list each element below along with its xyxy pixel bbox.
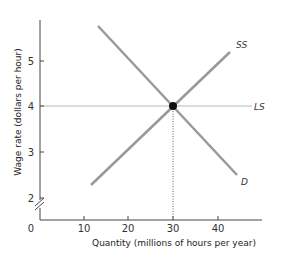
demand-curve (98, 26, 237, 175)
x-tick-label: 20 (122, 223, 135, 234)
short-run-supply-curve (91, 52, 230, 185)
y-tick-label: 5 (28, 56, 34, 67)
x-tick-label: 10 (78, 223, 91, 234)
ls-label: LS (254, 102, 265, 112)
equilibrium-point (169, 102, 177, 110)
x-tick-label: 40 (212, 223, 225, 234)
x-tick-label: 30 (167, 223, 180, 234)
d-label: D (241, 177, 248, 187)
y-tick-label: 3 (28, 147, 34, 158)
x-axis-title: Quantity (millions of hours per year) (92, 238, 256, 248)
ss-label: SS (236, 40, 247, 50)
labor-market-chart: 5 4 3 2 0 10 20 30 40 Quantity (millions… (0, 0, 281, 256)
y-tick-label: 4 (28, 101, 34, 112)
y-tick-label: 2 (28, 193, 34, 204)
x-tick-label: 0 (28, 223, 34, 234)
y-axis-title: Wage rate (dollars per hour) (13, 48, 23, 176)
